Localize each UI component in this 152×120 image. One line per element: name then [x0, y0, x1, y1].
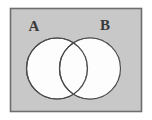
venn-diagram-figure: A B [0, 0, 152, 120]
set-label-b: B [100, 17, 110, 33]
venn-diagram-canvas: A B [0, 0, 152, 120]
set-label-a: A [29, 18, 40, 34]
